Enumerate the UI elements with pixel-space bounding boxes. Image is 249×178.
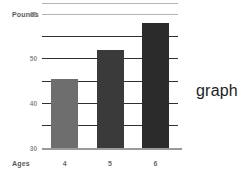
x-axis-title: Ages — [12, 160, 30, 167]
y-axis-tick-label: 40 — [30, 99, 37, 106]
plot-area: 0102030405060 456 — [42, 14, 178, 148]
bar — [97, 50, 124, 148]
y-axis-tick-label: 50 — [30, 55, 37, 62]
graph-annotation-label: graph — [196, 82, 238, 100]
bar — [142, 23, 169, 148]
y-axis-tick-label: 30 — [30, 144, 37, 151]
bar-chart-figure: Pounds Ages 0102030405060 456 graph — [0, 0, 249, 178]
x-axis-tick-label: 6 — [153, 160, 157, 167]
bars-group — [42, 14, 178, 148]
top-rule — [42, 3, 178, 4]
x-axis-tick-label: 5 — [108, 160, 112, 167]
y-axis-tick-label: 60 — [30, 10, 37, 17]
bar — [51, 79, 78, 148]
x-axis-tick-label: 4 — [63, 160, 67, 167]
